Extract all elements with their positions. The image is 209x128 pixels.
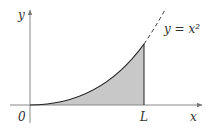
bound-label: L bbox=[139, 110, 148, 124]
curve-label: y = x² bbox=[163, 22, 200, 36]
diagram-canvas: y x 0 L y = x² bbox=[0, 0, 209, 128]
curve-dashed bbox=[144, 8, 166, 44]
x-axis-label: x bbox=[190, 110, 197, 124]
origin-label: 0 bbox=[18, 110, 26, 124]
shaded-area bbox=[30, 44, 144, 105]
y-axis-label: y bbox=[17, 8, 25, 22]
